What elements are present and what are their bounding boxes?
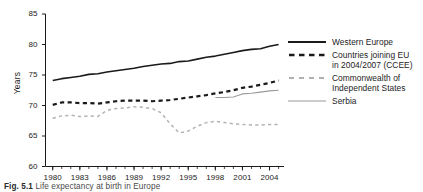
series-line-serbia xyxy=(215,90,278,97)
figure-caption: Fig. 5.1 Life expectancy at birth in Eur… xyxy=(4,182,160,191)
legend-swatch-cis xyxy=(288,73,326,83)
legend-label-line1: Countries joining EU xyxy=(332,50,409,60)
legend-label-line2: in 2004/2007 (CCEE) xyxy=(332,60,423,71)
legend-item-serbia: Serbia xyxy=(288,96,423,107)
legend-item-cis: Commonwealth of Independent States xyxy=(288,73,423,94)
y-axis-tick-label: 80 xyxy=(18,40,38,49)
legend-label-line2: Independent States xyxy=(332,83,423,94)
legend-label-line1: Western Europe xyxy=(332,37,393,47)
x-axis-tick-label: 1983 xyxy=(65,173,95,182)
y-axis-tick-label: 75 xyxy=(18,70,38,79)
chart-axes xyxy=(46,14,285,167)
y-axis-tick-marks xyxy=(42,14,46,167)
figure-caption-text: Life expectancy at birth in Europe xyxy=(35,182,160,191)
figure-root: Years 606570758085 198019831986198919921… xyxy=(0,0,423,192)
x-axis-tick-label: 1995 xyxy=(173,173,203,182)
chart-series-layer xyxy=(53,45,279,133)
x-axis-tick-label: 1992 xyxy=(146,173,176,182)
x-axis-major-tick-marks xyxy=(53,167,270,171)
x-axis-tick-label: 1989 xyxy=(119,173,149,182)
y-axis-tick-label: 70 xyxy=(18,101,38,110)
legend-item-western-europe: Western Europe xyxy=(288,37,423,48)
figure-number: Fig. 5.1 xyxy=(4,182,33,191)
legend-label-line1: Serbia xyxy=(332,96,357,106)
x-axis-tick-label: 1998 xyxy=(200,173,230,182)
series-line-western-europe xyxy=(53,45,279,81)
legend-label-western-europe: Western Europe xyxy=(332,37,423,48)
x-axis-tick-label: 1980 xyxy=(38,173,68,182)
legend-swatch-ccee xyxy=(288,50,326,60)
legend-label-cis: Commonwealth of Independent States xyxy=(332,73,423,94)
series-line-countries-joining-eu-in-2004-2007-ccee xyxy=(53,80,279,104)
legend-swatch-serbia xyxy=(288,96,326,106)
x-axis-tick-label: 1986 xyxy=(92,173,122,182)
y-axis-tick-label: 60 xyxy=(18,162,38,171)
legend-label-serbia: Serbia xyxy=(332,96,423,107)
x-axis-tick-label: 2001 xyxy=(227,173,257,182)
legend-swatch-western-europe xyxy=(288,37,326,47)
series-line-commonwealth-of-independent-states xyxy=(53,107,279,133)
legend-label-line1: Commonwealth of xyxy=(332,73,400,83)
x-axis-tick-label: 2004 xyxy=(255,173,285,182)
y-axis-tick-label: 85 xyxy=(18,9,38,18)
chart-legend: Western Europe Countries joining EU in 2… xyxy=(288,37,423,108)
legend-label-ccee: Countries joining EU in 2004/2007 (CCEE) xyxy=(332,50,423,71)
legend-item-ccee: Countries joining EU in 2004/2007 (CCEE) xyxy=(288,50,423,71)
y-axis-tick-label: 65 xyxy=(18,131,38,140)
